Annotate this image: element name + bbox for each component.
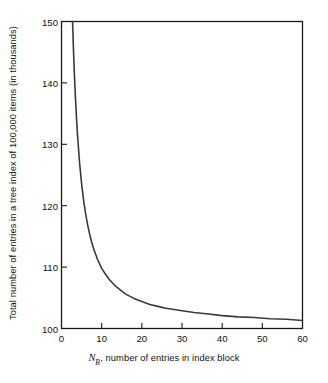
x-axis-tick-label: 60 bbox=[288, 333, 318, 344]
x-axis-label-subscript: B bbox=[95, 358, 100, 367]
chart-figure: Total number of entries in a tree index … bbox=[0, 0, 328, 383]
x-axis-label: NB, number of entries in index block bbox=[0, 352, 328, 366]
x-axis-label-rest: , number of entries in index block bbox=[100, 353, 239, 363]
x-axis-tick-labels: 0102030405060 bbox=[0, 333, 328, 349]
x-axis-tick-label: 40 bbox=[207, 333, 237, 344]
x-axis-tick-label: 20 bbox=[127, 333, 157, 344]
x-axis-tick-label: 10 bbox=[87, 333, 117, 344]
x-axis-tick-label: 30 bbox=[167, 333, 197, 344]
x-axis-tick-label: 50 bbox=[247, 333, 277, 344]
x-axis-tick-label: 0 bbox=[47, 333, 77, 344]
plot-frame bbox=[62, 22, 303, 329]
plot-area bbox=[0, 0, 328, 383]
